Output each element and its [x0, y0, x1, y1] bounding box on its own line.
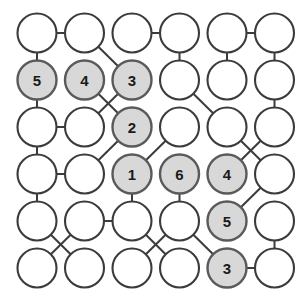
graph-node[interactable]	[255, 155, 294, 194]
graph-node[interactable]	[160, 61, 199, 100]
graph-node[interactable]	[18, 249, 57, 288]
graph-node[interactable]	[18, 202, 57, 241]
graph-node[interactable]	[65, 108, 104, 147]
graph-node[interactable]: 5	[208, 202, 247, 241]
node-circle-empty[interactable]	[18, 155, 57, 194]
node-circle-empty[interactable]	[255, 202, 294, 241]
graph-node[interactable]	[65, 249, 104, 288]
node-circle-empty[interactable]	[65, 249, 104, 288]
graph-node[interactable]	[113, 14, 152, 53]
node-label: 2	[128, 119, 136, 136]
node-circle-empty[interactable]	[65, 108, 104, 147]
node-circle-empty[interactable]	[160, 202, 199, 241]
graph-node[interactable]	[208, 14, 247, 53]
graph-node[interactable]	[160, 249, 199, 288]
graph-node[interactable]	[18, 14, 57, 53]
graph-node[interactable]	[18, 108, 57, 147]
node-circle-empty[interactable]	[160, 61, 199, 100]
graph-node[interactable]	[160, 108, 199, 147]
node-circle-empty[interactable]	[160, 108, 199, 147]
graph-node[interactable]: 4	[208, 155, 247, 194]
graph-node[interactable]	[255, 202, 294, 241]
node-label: 5	[223, 213, 231, 230]
graph-node[interactable]	[65, 202, 104, 241]
node-circle-empty[interactable]	[113, 249, 152, 288]
node-circle-empty[interactable]	[65, 155, 104, 194]
node-circle-empty[interactable]	[208, 108, 247, 147]
node-circle-empty[interactable]	[255, 108, 294, 147]
graph-node[interactable]: 5	[18, 61, 57, 100]
graph-node[interactable]	[113, 202, 152, 241]
graph-node[interactable]: 1	[113, 155, 152, 194]
node-label: 4	[223, 166, 232, 183]
graph-node[interactable]	[255, 61, 294, 100]
graph-node[interactable]	[65, 155, 104, 194]
node-circle-empty[interactable]	[255, 14, 294, 53]
graph-edge	[98, 141, 118, 161]
node-label: 6	[175, 166, 183, 183]
node-circle-empty[interactable]	[113, 14, 152, 53]
graph-edge	[98, 47, 118, 67]
graph-node[interactable]	[65, 14, 104, 53]
node-circle-empty[interactable]	[18, 249, 57, 288]
graph-node[interactable]	[18, 155, 57, 194]
graph-diagram: 543216453	[0, 0, 302, 301]
node-circle-empty[interactable]	[65, 202, 104, 241]
graph-node[interactable]: 4	[65, 61, 104, 100]
node-circle-empty[interactable]	[160, 14, 199, 53]
node-circle-empty[interactable]	[65, 14, 104, 53]
node-circle-empty[interactable]	[160, 249, 199, 288]
graph-edge	[193, 235, 213, 255]
node-circle-empty[interactable]	[18, 202, 57, 241]
node-label: 3	[223, 260, 231, 277]
graph-node[interactable]	[160, 202, 199, 241]
node-label: 4	[80, 72, 89, 89]
node-circle-empty[interactable]	[208, 14, 247, 53]
graph-edge	[193, 94, 213, 114]
graph-node[interactable]: 2	[113, 108, 152, 147]
graph-node[interactable]	[255, 14, 294, 53]
node-circle-empty[interactable]	[255, 155, 294, 194]
graph-node[interactable]	[255, 249, 294, 288]
graph-node[interactable]	[255, 108, 294, 147]
graph-node[interactable]: 3	[113, 61, 152, 100]
node-label: 3	[128, 72, 136, 89]
node-label: 5	[33, 72, 41, 89]
graph-node[interactable]: 6	[160, 155, 199, 194]
graph-node[interactable]	[208, 61, 247, 100]
node-circle-empty[interactable]	[255, 249, 294, 288]
node-circle-empty[interactable]	[208, 61, 247, 100]
node-circle-empty[interactable]	[113, 202, 152, 241]
graph-node[interactable]	[160, 14, 199, 53]
node-circle-empty[interactable]	[18, 108, 57, 147]
graph-canvas: 543216453	[0, 0, 302, 301]
node-circle-empty[interactable]	[18, 14, 57, 53]
graph-edge	[241, 188, 261, 208]
node-circle-empty[interactable]	[255, 61, 294, 100]
graph-node[interactable]	[113, 249, 152, 288]
graph-node[interactable]	[208, 108, 247, 147]
graph-node[interactable]: 3	[208, 249, 247, 288]
node-label: 1	[128, 166, 136, 183]
graph-edge	[146, 141, 166, 161]
